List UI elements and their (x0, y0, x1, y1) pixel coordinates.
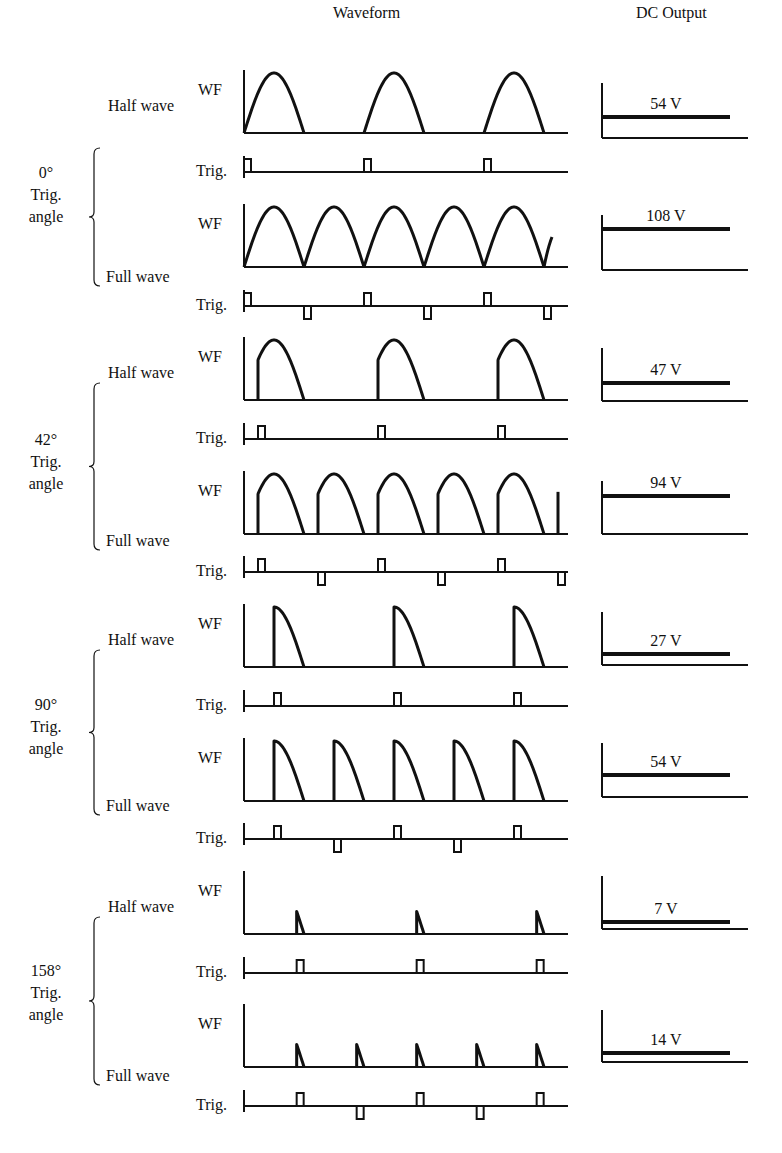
group-brace (89, 650, 100, 815)
dc-value-label: 108 V (646, 207, 686, 224)
half-wave-row (244, 871, 748, 979)
trig-label: Trig. (196, 696, 227, 714)
trigger-angle-label: Trig. (31, 186, 62, 204)
full-wave-row (244, 1004, 748, 1119)
partial-waveform (544, 237, 552, 267)
trigger-angle-value: 90° (35, 696, 57, 713)
half-wave-row (244, 604, 748, 712)
trig-label: Trig. (196, 1096, 227, 1114)
full-wave-label: Full wave (106, 797, 170, 814)
dc-value-label: 94 V (650, 474, 682, 491)
rectified-waveform (258, 474, 544, 534)
trigger-angle-group-90 (89, 604, 748, 852)
dc-value-label: 14 V (650, 1031, 682, 1048)
half-wave-row (244, 70, 748, 178)
trigger-angle-label: Trig. (31, 984, 62, 1002)
group-brace (89, 917, 100, 1085)
wf-label: WF (198, 749, 222, 766)
trigger-angle-label: angle (29, 475, 64, 493)
full-wave-label: Full wave (106, 268, 170, 285)
rectified-waveform (258, 340, 544, 400)
rectified-waveform (297, 1045, 544, 1068)
dc-value-label: 54 V (650, 95, 682, 112)
wf-label: WF (198, 482, 222, 499)
rectified-waveform (274, 607, 544, 667)
wf-label: WF (198, 348, 222, 365)
wf-label: WF (198, 215, 222, 232)
trigger-pulses (274, 693, 521, 706)
dc-value-label: 27 V (650, 632, 682, 649)
wf-label: WF (198, 882, 222, 899)
trig-label: Trig. (196, 296, 227, 314)
group-brace (89, 148, 100, 286)
trigger-angle-label: Trig. (31, 453, 62, 471)
half-wave-label: Half wave (108, 631, 174, 648)
trigger-pulses (297, 960, 544, 973)
rectified-waveform (244, 73, 544, 133)
trigger-angle-label: angle (29, 740, 64, 758)
half-wave-label: Half wave (108, 898, 174, 915)
trigger-angle-label: Trig. (31, 718, 62, 736)
dc-value-label: 47 V (650, 361, 682, 378)
half-wave-row (244, 337, 748, 445)
half-wave-label: Half wave (108, 364, 174, 381)
wf-label: WF (198, 1015, 222, 1032)
trigger-angle-value: 0° (39, 164, 53, 181)
trigger-angle-value: 158° (31, 962, 61, 979)
trigger-angle-label: angle (29, 208, 64, 226)
trigger-angle-group-0 (89, 70, 748, 319)
trigger-pulses (244, 159, 491, 172)
trig-label: Trig. (196, 562, 227, 580)
trig-label: Trig. (196, 963, 227, 981)
rectified-waveform (297, 912, 544, 935)
wf-label: WF (198, 81, 222, 98)
trig-label: Trig. (196, 162, 227, 180)
trigger-angle-group-42 (89, 337, 748, 585)
rectified-waveform (244, 207, 544, 267)
trigger-angle-group-158 (89, 871, 748, 1119)
trigger-angle-value: 42° (35, 431, 57, 448)
trig-label: Trig. (196, 429, 227, 447)
dc-value-label: 7 V (654, 900, 678, 917)
full-wave-label: Full wave (106, 532, 170, 549)
half-wave-label: Half wave (108, 97, 174, 114)
rectified-waveform (274, 741, 544, 801)
dc-value-label: 54 V (650, 753, 682, 770)
group-brace (89, 383, 100, 550)
waveform-diagram: WFTrig.54 VWFTrig.108 VHalf waveFull wav… (0, 0, 782, 1153)
full-wave-label: Full wave (106, 1067, 170, 1084)
trigger-angle-label: angle (29, 1006, 64, 1024)
trig-label: Trig. (196, 829, 227, 847)
trigger-pulses (258, 426, 505, 439)
wf-label: WF (198, 615, 222, 632)
